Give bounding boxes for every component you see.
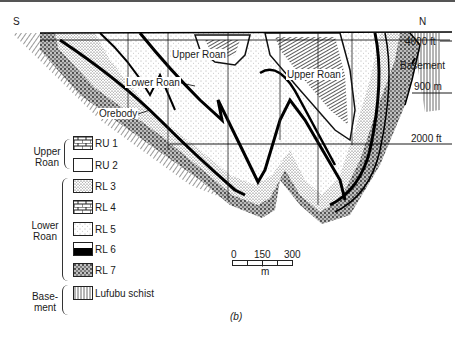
legend-group-label-line2: ment — [25, 302, 65, 313]
south-label: S — [13, 16, 20, 27]
legend-swatch-rl6 — [73, 242, 93, 256]
upper-roan-label-2: Upper Roan — [286, 69, 342, 80]
elevation-2000ft: 2000 ft — [411, 133, 442, 144]
legend-group-basement: Base- ment — [25, 291, 65, 313]
orebody-label: Orebody — [98, 108, 138, 119]
legend-label-ru1: RU 1 — [95, 138, 118, 149]
legend-label-rl5: RL 5 — [95, 224, 116, 235]
legend-label-rl6: RL 6 — [95, 244, 116, 255]
legend-swatch-rl4 — [73, 200, 93, 214]
elevation-4000ft: 4000 ft — [405, 36, 436, 47]
legend-group-label-line2: Roan — [25, 231, 65, 242]
legend-brace-upper-roan — [64, 139, 71, 169]
legend-swatch-lufubu-schist — [73, 286, 93, 300]
legend-swatch-rl5 — [73, 222, 93, 236]
legend-label-rl4: RL 4 — [95, 202, 116, 213]
legend-swatch-ru1 — [73, 136, 93, 150]
figure-caption: (b) — [230, 311, 242, 322]
legend-group-label-line1: Upper — [27, 146, 67, 157]
upper-roan-label-1: Upper Roan — [171, 49, 227, 60]
lower-roan-label: Lower Roan — [125, 77, 181, 88]
legend-label-lufubu-schist: Lufubu schist — [95, 288, 154, 299]
legend-label-ru2: RU 2 — [95, 160, 118, 171]
legend-group-upper-roan: Upper Roan — [27, 146, 67, 168]
legend-group-label-line2: Roan — [27, 157, 67, 168]
north-label: N — [419, 16, 426, 27]
legend-swatch-ru2 — [73, 158, 93, 172]
legend-group-label-line1: Lower — [25, 220, 65, 231]
legend-group-label-line1: Base- — [25, 291, 65, 302]
legend-swatch-rl3 — [73, 179, 93, 193]
legend-label-rl3: RL 3 — [95, 181, 116, 192]
legend-group-lower-roan: Lower Roan — [25, 220, 65, 242]
basement-label: Basement — [400, 60, 445, 71]
legend-swatch-rl7 — [73, 263, 93, 277]
elevation-900m: 900 m — [414, 81, 442, 92]
legend-label-rl7: RL 7 — [95, 265, 116, 276]
scale-unit: m — [261, 266, 269, 277]
